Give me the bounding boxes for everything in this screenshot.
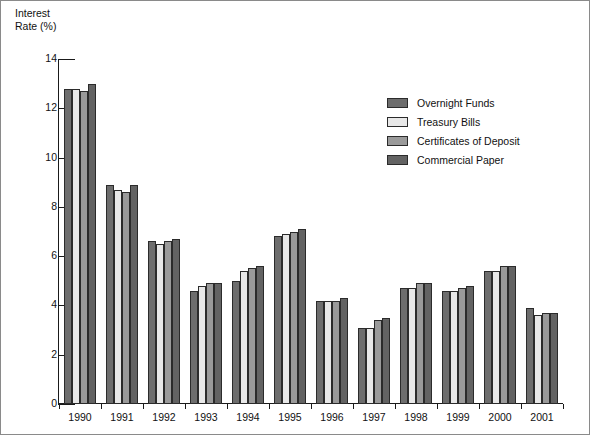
x-axis-tick-mark <box>227 404 228 409</box>
bar-group <box>185 59 227 404</box>
bar-group <box>311 59 353 404</box>
x-axis-tick-label: 1990 <box>57 411 103 423</box>
x-axis-tick-label: 2000 <box>477 411 523 423</box>
x-axis-tick-mark <box>185 404 186 409</box>
x-axis-tick-mark <box>59 404 60 409</box>
bar-group <box>59 59 101 404</box>
bar <box>374 320 382 404</box>
bar <box>164 241 172 404</box>
legend-swatch-icon <box>387 155 408 165</box>
bar <box>248 268 256 404</box>
bar <box>64 89 72 404</box>
x-axis-tick-mark <box>395 404 396 409</box>
bar <box>358 328 366 404</box>
bar <box>256 266 264 404</box>
bar <box>190 291 198 404</box>
bar <box>416 283 424 404</box>
y-axis-tick-label: 6 <box>17 249 57 261</box>
bar <box>332 301 340 405</box>
y-axis-tick-label: 4 <box>17 298 57 310</box>
bar <box>198 286 206 404</box>
x-axis-tick-label: 2001 <box>519 411 565 423</box>
bar <box>466 286 474 404</box>
bar <box>366 328 374 404</box>
legend-item-label: Overnight Funds <box>417 97 495 109</box>
legend-swatch-icon <box>387 136 408 146</box>
y-axis-tick-label: 2 <box>17 348 57 360</box>
y-axis-tick: 0 <box>13 404 75 405</box>
chart-legend: Overnight FundsTreasury BillsCertificate… <box>387 95 520 171</box>
bar <box>382 318 390 404</box>
bar-group <box>101 59 143 404</box>
legend-item: Overnight Funds <box>387 95 520 111</box>
bar <box>156 244 164 404</box>
bar <box>298 229 306 404</box>
x-axis-tick-mark <box>101 404 102 409</box>
y-axis-title: Interest Rate (%) <box>15 7 56 34</box>
legend-item-label: Certificates of Deposit <box>417 135 520 147</box>
bar <box>88 84 96 404</box>
bar-group <box>521 59 563 404</box>
bar <box>274 236 282 404</box>
legend-item: Treasury Bills <box>387 114 520 130</box>
x-axis-tick-mark <box>563 404 564 409</box>
legend-swatch-icon <box>387 117 408 127</box>
bar-group <box>227 59 269 404</box>
x-axis-tick-mark <box>479 404 480 409</box>
bar <box>492 271 500 404</box>
legend-item-label: Treasury Bills <box>417 116 480 128</box>
x-axis-tick-label: 1999 <box>435 411 481 423</box>
legend-item-label: Commercial Paper <box>417 154 504 166</box>
x-axis-tick-label: 1998 <box>393 411 439 423</box>
bar <box>534 315 542 404</box>
bar <box>214 283 222 404</box>
bar <box>442 291 450 404</box>
chart-figure: Interest Rate (%) 02468101214 1990199119… <box>0 0 590 435</box>
bar <box>458 288 466 404</box>
x-axis-tick-mark <box>521 404 522 409</box>
bar <box>550 313 558 404</box>
x-axis-tick-label: 1994 <box>225 411 271 423</box>
y-axis-tick-label: 14 <box>17 52 57 64</box>
bar <box>80 91 88 404</box>
bar <box>500 266 508 404</box>
bar <box>148 241 156 404</box>
x-axis-tick-label: 1997 <box>351 411 397 423</box>
legend-item: Commercial Paper <box>387 152 520 168</box>
x-axis-tick-mark <box>353 404 354 409</box>
x-axis-tick-label: 1991 <box>99 411 145 423</box>
x-axis-tick-mark <box>311 404 312 409</box>
x-axis-tick-label: 1993 <box>183 411 229 423</box>
x-axis-tick-mark <box>437 404 438 409</box>
x-axis-tick-label: 1996 <box>309 411 355 423</box>
bar <box>130 185 138 404</box>
bar <box>206 283 214 404</box>
x-axis-tick-mark <box>269 404 270 409</box>
bar <box>72 89 80 404</box>
bar-group <box>143 59 185 404</box>
x-axis-tick-label: 1992 <box>141 411 187 423</box>
y-axis-tick-label: 12 <box>17 101 57 113</box>
bar <box>450 291 458 404</box>
bar <box>114 190 122 404</box>
y-axis-tick-mark <box>58 404 75 405</box>
bar <box>240 271 248 404</box>
bar <box>340 298 348 404</box>
y-axis-tick-label: 10 <box>17 151 57 163</box>
x-axis-tick-label: 1995 <box>267 411 313 423</box>
bar-group <box>269 59 311 404</box>
bar <box>106 185 114 404</box>
bar <box>290 232 298 405</box>
y-axis-tick-label: 0 <box>17 397 57 409</box>
bar <box>172 239 180 404</box>
bar <box>232 281 240 404</box>
bar <box>316 301 324 405</box>
bar <box>324 301 332 405</box>
bar <box>424 283 432 404</box>
bar <box>122 192 130 404</box>
bar <box>526 308 534 404</box>
bar <box>408 288 416 404</box>
bar <box>282 234 290 404</box>
bar <box>542 313 550 404</box>
y-axis-tick-label: 8 <box>17 200 57 212</box>
